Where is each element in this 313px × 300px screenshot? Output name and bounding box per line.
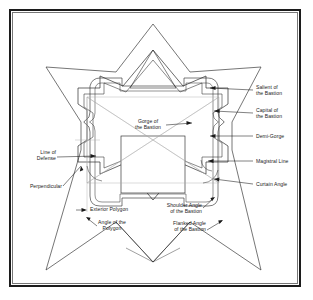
leader-curtain-angle xyxy=(214,179,253,184)
arrow-capital xyxy=(214,109,220,113)
label-demi-gorge: Demi-Gorge xyxy=(256,133,308,139)
label-angle-of-polygon: Angle of the Polygon xyxy=(88,219,136,231)
label-capital: Capital of the Bastion xyxy=(256,107,308,119)
label-perpendicular: Perpendicular xyxy=(10,183,62,189)
leader-salient xyxy=(210,88,253,90)
arrow-exterior-polygon xyxy=(82,208,88,212)
central-courtyard xyxy=(121,136,185,193)
arrow-gorge xyxy=(187,121,193,125)
label-magistral-line: Magistral Line xyxy=(256,158,310,164)
label-curtain-angle: Curtain Angle xyxy=(256,181,308,187)
leader-capital xyxy=(214,111,253,113)
bastion-fort-figure: Salient of the Bastion Capital of the Ba… xyxy=(0,0,313,300)
label-exterior-polygon: Exterior Polygon xyxy=(90,206,148,212)
label-salient: Salient of the Bastion xyxy=(256,84,308,96)
label-line-of-defense: Line of Defense xyxy=(12,149,56,161)
arrow-flanked-angle xyxy=(218,220,223,224)
label-gorge: Gorge of the Bastion xyxy=(128,118,168,130)
arrow-magistral xyxy=(208,159,214,163)
arrow-curtain-angle xyxy=(214,178,220,182)
label-shoulder-angle: Shoulder Angle of the Bastion xyxy=(148,202,202,214)
label-flanked-angle: Flanked Angle of the Bastion xyxy=(152,220,206,232)
leader-perpendicular xyxy=(63,166,81,186)
